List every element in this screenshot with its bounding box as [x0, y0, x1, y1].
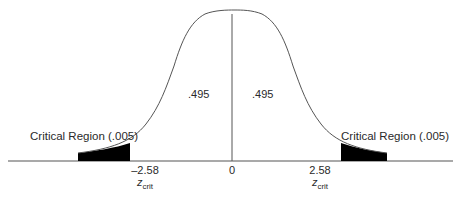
crit-subscript: crit — [317, 182, 328, 191]
tick-label-center: 0 — [229, 165, 235, 176]
tick-label-right: 2.58 — [309, 165, 330, 176]
z-crit-label-right: zcrit — [312, 177, 328, 191]
right-critical-region-label: Critical Region (.005) — [341, 131, 449, 143]
tick-label-left: –2.58 — [131, 165, 159, 176]
center-area-left-label: .495 — [188, 89, 209, 100]
crit-subscript: crit — [142, 182, 153, 191]
center-area-right-label: .495 — [252, 89, 273, 100]
z-crit-label-left: zcrit — [137, 177, 153, 191]
left-critical-region-label: Critical Region (.005) — [30, 131, 138, 143]
